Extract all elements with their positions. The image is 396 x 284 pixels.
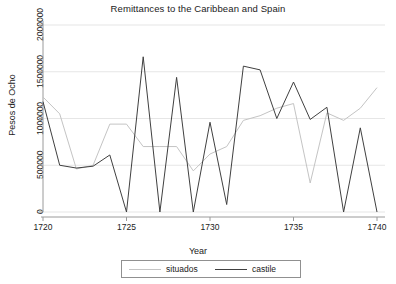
gridlines <box>43 25 385 212</box>
legend-swatch-situados <box>129 269 161 270</box>
series-line-situados <box>43 88 377 183</box>
legend-swatch-castile <box>215 269 247 270</box>
series-line-castile <box>43 57 377 212</box>
chart-figure: Remittances to the Caribbean and Spain P… <box>0 0 396 284</box>
plot-area <box>0 0 396 284</box>
legend-entry-situados[interactable]: situados <box>129 261 198 277</box>
x-axis-label: Year <box>0 246 396 256</box>
axis-ticks <box>39 25 377 221</box>
legend-label-castile: castile <box>252 264 276 274</box>
legend-entry-castile[interactable]: castile <box>215 261 276 277</box>
legend-label-situados: situados <box>166 264 198 274</box>
chart-legend: situadoscastile <box>121 260 301 278</box>
data-series-lines <box>43 57 377 212</box>
